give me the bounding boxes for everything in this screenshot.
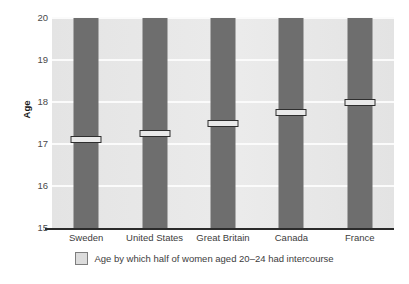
bar-group[interactable] [189, 18, 257, 228]
plot-area [52, 18, 394, 228]
chart-figure: Age 201918171615 SwedenUnited StatesGrea… [0, 0, 409, 284]
value-marker[interactable] [344, 99, 375, 106]
value-marker[interactable] [207, 120, 238, 127]
bar[interactable] [347, 18, 372, 228]
x-axis-category-label: France [326, 231, 394, 245]
y-axis-tick-label: 18 [22, 97, 48, 107]
y-axis-tick-label: 17 [22, 139, 48, 149]
value-marker[interactable] [276, 109, 307, 116]
legend-swatch-icon [75, 252, 88, 265]
bars-layer [52, 18, 394, 228]
bar-group[interactable] [120, 18, 188, 228]
y-axis-tick-labels: 201918171615 [22, 0, 48, 284]
x-axis-category-label: United States [120, 231, 188, 245]
bar-group[interactable] [326, 18, 394, 228]
x-axis-category-label: Great Britain [189, 231, 257, 245]
y-axis-tick-label: 16 [22, 181, 48, 191]
bar[interactable] [74, 18, 99, 228]
bar[interactable] [142, 18, 167, 228]
y-axis-tick-label: 19 [22, 55, 48, 65]
bar-group[interactable] [52, 18, 120, 228]
value-marker[interactable] [139, 130, 170, 137]
y-axis-tick-label: 20 [22, 13, 48, 23]
x-axis-category-label: Sweden [52, 231, 120, 245]
x-axis-category-label: Canada [257, 231, 325, 245]
legend-item-label: Age by which half of women aged 20–24 ha… [94, 253, 333, 264]
value-marker[interactable] [71, 136, 102, 143]
chart-legend: Age by which half of women aged 20–24 ha… [0, 252, 409, 265]
x-axis-category-labels: SwedenUnited StatesGreat BritainCanadaFr… [52, 231, 394, 247]
bar[interactable] [279, 18, 304, 228]
bar-group[interactable] [257, 18, 325, 228]
x-axis-line [52, 228, 394, 230]
